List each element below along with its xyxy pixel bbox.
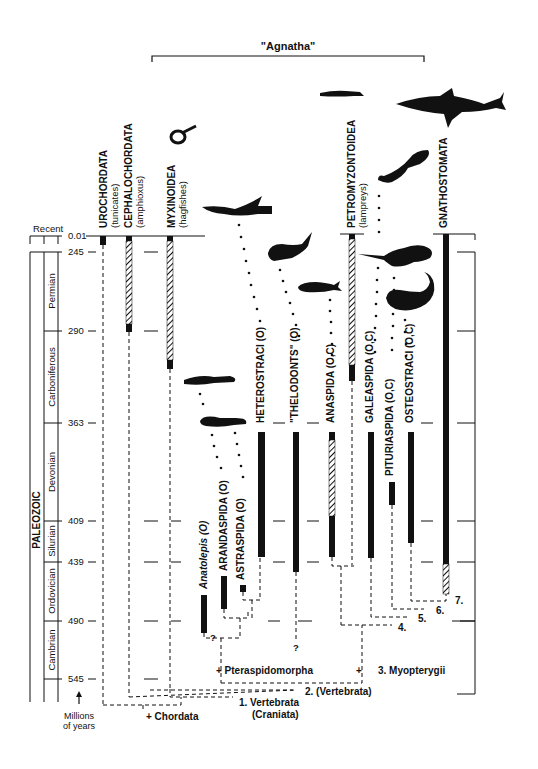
shark-icon — [396, 88, 506, 128]
tick-490: 490 — [68, 615, 84, 626]
svg-text:ANASPIDA (O,C): ANASPIDA (O,C) — [325, 344, 336, 423]
pituriaspid-fish-icon — [358, 245, 432, 266]
question-mark-anatolepis: ? — [210, 632, 216, 643]
time-scale: Recent PALEOZOIC Permian Carboniferous D… — [30, 223, 205, 731]
hagfish-icon — [171, 126, 196, 143]
node-labels: + Chordata 1. Vertebrata (Craniata) 2. (… — [146, 595, 464, 722]
svg-text:(lampreys): (lampreys) — [357, 183, 368, 228]
node-vertebrata-craniata: 1. Vertebrata — [239, 697, 299, 708]
svg-text:ASTRASPIDA (O): ASTRASPIDA (O) — [235, 498, 246, 580]
node-4: 4. — [398, 622, 407, 633]
taxon-thelodonts: "THELODONTS" (O) ? — [289, 327, 300, 653]
dotted-line-thelodonts — [279, 269, 301, 338]
svg-text:MYXINOIDEA: MYXINOIDEA — [166, 165, 177, 228]
svg-text:HETEROSTRACI (O): HETEROSTRACI (O) — [255, 327, 266, 423]
up-arrow-icon — [76, 691, 82, 704]
period-ordovician: Ordovician — [46, 568, 57, 613]
svg-text:OSTEOSTRACI (O,C): OSTEOSTRACI (O,C) — [404, 324, 415, 423]
heterostracan-fish-icon — [202, 196, 272, 216]
question-mark-thelodonts: ? — [293, 642, 299, 653]
taxon-anatolepis: Anatolepis (O) — [198, 520, 209, 633]
cladogram-branches — [103, 505, 446, 711]
era-paleozoic: PALEOZOIC — [31, 491, 42, 549]
taxon-anaspida: ANASPIDA (O,C) — [325, 344, 336, 557]
period-carboniferous: Carboniferous — [46, 347, 57, 407]
node-myopterygii: 3. Myopterygii — [378, 665, 445, 676]
lamprey-icon — [320, 91, 364, 97]
period-cambrian: Cambrian — [46, 629, 57, 670]
agnatha-title: "Agnatha" — [261, 40, 315, 52]
period-silurian: Silurian — [46, 525, 57, 557]
svg-text:PETROMYZONTOIDEA: PETROMYZONTOIDEA — [346, 120, 357, 228]
taxon-petromyzontoidea: PETROMYZONTOIDEA (lampreys) — [320, 91, 368, 565]
svg-text:CEPHALOCHORDATA: CEPHALOCHORDATA — [123, 123, 134, 228]
cladogram-diagram: "Agnatha" Recent PALEOZOIC Permian Carbo… — [0, 0, 538, 769]
dotted-line-arandaspida — [211, 434, 223, 470]
tick-363: 363 — [68, 417, 84, 428]
tick-245: 245 — [68, 246, 84, 257]
taxon-arandaspida: ARANDASPIDA (O) — [218, 480, 229, 609]
svg-text:ARANDASPIDA (O): ARANDASPIDA (O) — [218, 480, 229, 571]
agnatha-bracket: "Agnatha" — [152, 40, 424, 62]
period-devonian: Devonian — [46, 452, 57, 492]
dotted-line-astraspida — [234, 432, 245, 479]
taxon-heterostraci: HETEROSTRACI (O) — [255, 327, 266, 557]
node-pteraspidomorpha: + Pteraspidomorpha — [216, 665, 313, 676]
units-label-1: Millions — [64, 711, 95, 721]
taxon-pituriaspida: PITURIASPIDA (O,C) — [384, 379, 395, 505]
tick-545: 545 — [68, 673, 84, 684]
node-craniata: (Craniata) — [252, 709, 299, 720]
svg-text:(hagfishes): (hagfishes) — [177, 181, 188, 228]
tick-0.01: 0.01 — [68, 230, 87, 241]
svg-text:PITURIASPIDA (O,C): PITURIASPIDA (O,C) — [384, 379, 395, 476]
taxon-urochordata: UROCHORDATA (tunicates) — [98, 150, 120, 705]
tick-439: 439 — [68, 556, 84, 567]
svg-text:(amphioxus): (amphioxus) — [134, 176, 145, 228]
node-myopterygii-plus: + — [356, 665, 362, 676]
units-label-2: of years — [63, 721, 96, 731]
dotted-line-heterostraci — [238, 224, 262, 323]
svg-text:(tunicates): (tunicates) — [109, 184, 120, 228]
taxon-galeaspida: GALEASPIDA (O,C) — [364, 331, 375, 558]
anaspid-fish-icon — [298, 281, 342, 292]
taxon-astraspida: ASTRASPIDA (O) — [235, 498, 246, 592]
galeaspid-fish-icon — [378, 150, 429, 183]
node-6: 6. — [436, 605, 445, 616]
svg-text:GALEASPIDA (O,C): GALEASPIDA (O,C) — [364, 331, 375, 423]
dotted-line-galeaspida — [374, 195, 381, 354]
node-7: 7. — [455, 595, 464, 606]
dotted-line-pituriaspida — [391, 277, 396, 352]
astraspid-fish-icon — [200, 417, 246, 427]
svg-text:UROCHORDATA: UROCHORDATA — [98, 150, 109, 228]
tick-290: 290 — [68, 325, 84, 336]
svg-text:GNATHOSTOMATA: GNATHOSTOMATA — [438, 138, 449, 228]
taxon-osteostraci: OSTEOSTRACI (O,C) — [404, 324, 415, 543]
taxon-cephalochordata: CEPHALOCHORDATA (amphioxus) — [123, 123, 145, 697]
tick-409: 409 — [68, 515, 84, 526]
taxon-myxinoidea: MYXINOIDEA (hagfishes) — [166, 126, 196, 689]
node-5: 5. — [418, 613, 427, 624]
svg-text:"THELODONTS" (O): "THELODONTS" (O) — [289, 327, 300, 423]
node-chordata: + Chordata — [146, 711, 199, 722]
svg-text:Anatolepis (O): Anatolepis (O) — [198, 520, 209, 590]
node-vertebrata: 2. (Vertebrata) — [305, 686, 372, 697]
recent-label: Recent — [33, 223, 63, 234]
period-permian: Permian — [46, 273, 57, 308]
dotted-line-anatolepis — [199, 393, 205, 406]
arandaspid-fish-icon — [184, 376, 235, 385]
thelodont-fish-icon — [268, 232, 312, 261]
